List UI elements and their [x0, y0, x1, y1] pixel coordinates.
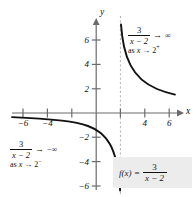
limit-annotation-right-expression: 3 x − 2 → ∞ [128, 26, 171, 45]
x-axis-arrow [177, 110, 184, 117]
limit-annotation-left: 3 x − 2 → −∞ as x → 2− [10, 140, 57, 169]
limit-condition-left: as x → 2− [10, 160, 57, 169]
x-tick-label-neg6: −6 [18, 119, 29, 128]
limit-condition-right-variable: x [137, 46, 141, 55]
formula-fraction: 3 x − 2 [143, 163, 167, 183]
y-tick-label-4: 4 [85, 60, 90, 69]
formula-numerator: 3 [150, 163, 159, 172]
fraction-right: 3 x − 2 [128, 26, 150, 45]
limit-condition-left-sign: − [38, 158, 41, 164]
x-axis-label: x [186, 107, 190, 117]
limit-condition-left-prefix: as [10, 160, 17, 169]
y-axis-arrow [93, 18, 100, 25]
formula-lhs: f(x) [119, 168, 132, 178]
fraction-right-denominator: x − 2 [128, 36, 150, 46]
limit-condition-right-sign: + [156, 44, 159, 50]
limit-annotation-left-expression: 3 x − 2 → −∞ [10, 140, 57, 159]
limit-arrow-left: → [34, 144, 45, 154]
limit-condition-left-arrow: → [24, 160, 32, 169]
function-graph-figure: y x −6 −4 4 6 6 4 2 −2 −4 −6 3 x − 2 → ∞… [0, 0, 196, 197]
x-tick-label-6: 6 [167, 119, 172, 128]
function-formula-box: f(x) = 3 x − 2 [113, 157, 192, 188]
y-tick-label-neg4: −4 [78, 157, 89, 166]
fraction-right-numerator: 3 [135, 26, 143, 35]
y-tick-label-6: 6 [85, 36, 90, 45]
limit-arrow-right: → [152, 30, 163, 40]
limit-condition-right-prefix: as [128, 46, 135, 55]
x-tick-label-neg4: −4 [42, 119, 53, 128]
y-tick-label-neg6: −6 [78, 182, 89, 191]
fraction-left-numerator: 3 [17, 140, 25, 149]
y-axis-label: y [100, 8, 104, 18]
limit-annotation-right: 3 x − 2 → ∞ as x → 2+ [128, 26, 171, 55]
x-tick-label-4: 4 [143, 119, 148, 128]
y-tick-label-neg2: −2 [78, 133, 89, 142]
limit-condition-left-variable: x [19, 160, 23, 169]
formula-denominator: x − 2 [143, 173, 166, 183]
limit-condition-right: as x → 2+ [128, 46, 171, 55]
limit-value-right: ∞ [165, 31, 171, 40]
limit-value-left: −∞ [47, 145, 57, 154]
y-tick-label-2: 2 [85, 84, 90, 93]
formula-equals: = [135, 168, 140, 178]
fraction-left: 3 x − 2 [10, 140, 32, 159]
fraction-left-denominator: x − 2 [10, 150, 32, 160]
limit-condition-right-arrow: → [142, 46, 150, 55]
